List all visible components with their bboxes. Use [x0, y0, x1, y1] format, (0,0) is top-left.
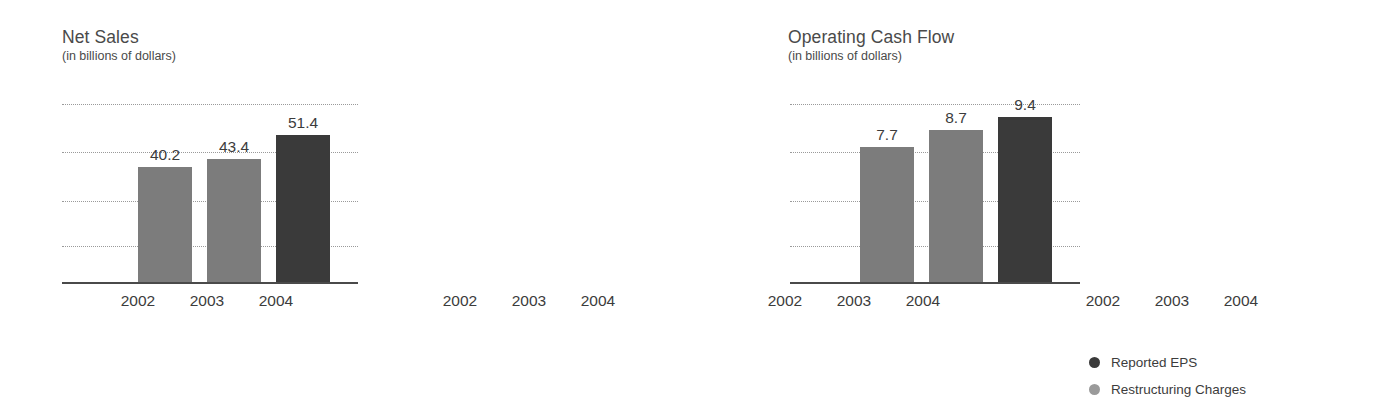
legend-label: Reported EPS	[1111, 355, 1197, 370]
x-label-2002: 2002	[1068, 292, 1138, 310]
x-label-2004: 2004	[563, 292, 633, 310]
legend-dot-icon	[1089, 384, 1100, 395]
bar-2003	[207, 159, 261, 282]
bar-2004	[276, 135, 330, 282]
chart-1-bars: 40.2 43.4 51.4	[62, 96, 358, 284]
chart-1-plot-area: 40.2 43.4 51.4	[62, 96, 358, 284]
chart-panel-diluted-net-earnings: Diluted Net Earnings (per common share) …	[715, 0, 1033, 418]
chart-panel-operating-cash-flow: Operating Cash Flow (in billions of doll…	[390, 0, 715, 418]
chart-legend: Reported EPS Restructuring Charges	[1089, 349, 1246, 403]
chart-panel-net-sales: Net Sales (in billions of dollars) 40.2 …	[0, 0, 390, 418]
x-label-2002: 2002	[103, 292, 173, 310]
x-label-2003: 2003	[172, 292, 242, 310]
x-label-2004: 2004	[241, 292, 311, 310]
chart-1-title-block: Net Sales (in billions of dollars)	[62, 27, 176, 64]
x-label-2004: 2004	[888, 292, 958, 310]
x-label-2002: 2002	[750, 292, 820, 310]
bar-value-2004: 51.4	[263, 114, 343, 132]
legend-label: Restructuring Charges	[1111, 382, 1246, 397]
legend-item-reported-eps: Reported EPS	[1089, 349, 1246, 376]
bar-value-2002: 40.2	[125, 146, 205, 164]
x-label-2004: 2004	[1206, 292, 1276, 310]
chart-1-subtitle: (in billions of dollars)	[62, 48, 176, 64]
legend-item-restructuring-charges: Restructuring Charges	[1089, 376, 1246, 403]
x-label-2003: 2003	[1137, 292, 1207, 310]
x-label-2003: 2003	[494, 292, 564, 310]
bar-value-2003: 43.4	[194, 138, 274, 156]
bar-2002	[138, 167, 192, 282]
x-label-2003: 2003	[819, 292, 889, 310]
legend-dot-icon	[1089, 357, 1100, 368]
x-label-2002: 2002	[425, 292, 495, 310]
chart-1-title: Net Sales	[62, 27, 176, 47]
